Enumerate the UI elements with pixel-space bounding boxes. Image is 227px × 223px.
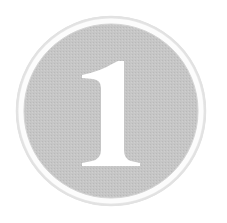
number-one-badge-icon	[0, 0, 227, 223]
number-badge	[0, 0, 227, 223]
